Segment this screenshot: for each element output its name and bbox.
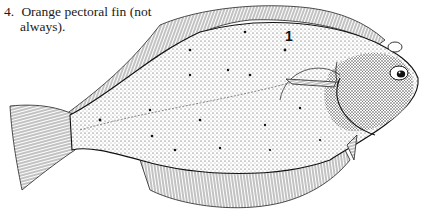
caudal-fin: [10, 105, 75, 190]
eye: [390, 66, 408, 80]
upper-eye-bump: [388, 42, 402, 52]
callout-label-1: 1: [285, 28, 293, 44]
flounder-illustration: [0, 0, 434, 212]
